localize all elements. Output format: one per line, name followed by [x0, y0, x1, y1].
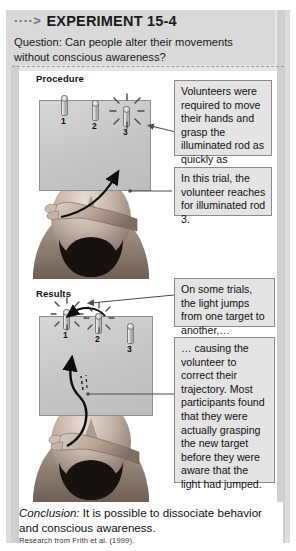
procedure-callout-2-leader — [125, 182, 173, 198]
results-callout-1-leader — [69, 289, 175, 311]
results-rod-1-number: 1 — [63, 330, 68, 340]
results-label: Results — [36, 288, 71, 299]
citation: Research from Frith et al. (1999). — [19, 536, 134, 545]
procedure-scene: Procedure — [19, 71, 163, 279]
results-callout-2: … causing the volunteer to correct their… — [174, 337, 275, 483]
results-rod-3 — [127, 323, 134, 344]
conclusion-text: Conclusion: It is possible to dissociate… — [19, 505, 281, 535]
experiment-title: EXPERIMENT 15-4 — [46, 13, 176, 29]
conclusion-label: Conclusion: — [19, 506, 80, 519]
header-divider — [12, 66, 284, 67]
header-title-row: ····> EXPERIMENT 15-4 — [14, 13, 267, 32]
procedure-callout-1-leader — [143, 118, 177, 140]
conclusion-area: Conclusion: It is possible to dissociate… — [19, 502, 283, 543]
procedure-label: Procedure — [36, 73, 84, 84]
procedure-rod-1-number: 1 — [61, 116, 66, 126]
procedure-callout-2: In this trial, the volunteer reaches for… — [174, 167, 272, 216]
experiment-question: Question: Can people alter their movemen… — [14, 35, 266, 64]
results-callout-2-leader — [84, 387, 176, 401]
procedure-callout-1: Volunteers were required to move their h… — [174, 80, 272, 156]
results-callout-1: On some trials, the light jumps from one… — [174, 278, 275, 327]
procedure-rod-1 — [61, 95, 68, 116]
procedure-rod-3 — [123, 106, 130, 127]
results-hand-and-trajectory — [19, 348, 163, 488]
experiment-figure: ····> EXPERIMENT 15-4 Question: Can peop… — [0, 0, 296, 551]
figure-content-card: Procedure — [19, 71, 277, 502]
results-rod-2-number: 2 — [95, 334, 100, 344]
figure-header: ····> EXPERIMENT 15-4 Question: Can peop… — [6, 10, 275, 65]
procedure-rod-2 — [92, 100, 99, 121]
dotted-arrow-icon: ····> — [14, 14, 41, 28]
